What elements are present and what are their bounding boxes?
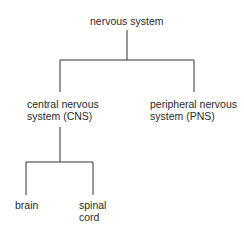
- node-pns-line1: peripheral nervous: [150, 98, 237, 110]
- node-spinal-cord-line1: spinal: [79, 199, 106, 211]
- node-cns-line1: central nervous: [27, 98, 99, 110]
- node-brain: brain: [15, 199, 38, 211]
- node-spinal-cord-line2: cord: [79, 211, 99, 223]
- node-cns-line2: system (CNS): [27, 110, 92, 122]
- node-pns-line2: system (PNS): [150, 110, 215, 122]
- node-nervous-system: nervous system: [90, 15, 164, 27]
